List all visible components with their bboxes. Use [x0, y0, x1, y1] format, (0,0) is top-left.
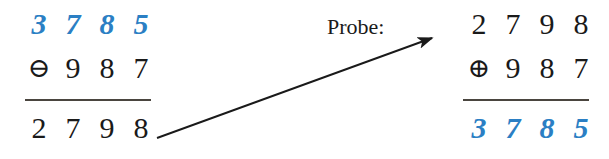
digit-cell: 7	[124, 53, 158, 83]
digit-cell: 7	[496, 113, 530, 143]
addition-addend-row: ⊕ 9 8 7	[440, 48, 608, 88]
digit-cell: 7	[564, 53, 598, 83]
probe-arithmetic-figure: 3 7 8 5 ⊖ 9 8 7 2 7 9 8 Probe:	[0, 0, 609, 159]
digit-cell: 5	[564, 113, 598, 143]
circled-plus-icon: ⊕	[462, 55, 496, 82]
addition-rule	[463, 99, 589, 101]
probe-label: Probe:	[327, 14, 384, 40]
addition-result-row: 3 7 8 5	[440, 108, 608, 148]
digit-cell: 7	[496, 9, 530, 39]
digit-cell: 8	[124, 113, 158, 143]
digit-cell: 8	[530, 53, 564, 83]
digit-cell: 9	[90, 113, 124, 143]
digit-cell: 3	[22, 9, 56, 39]
subtraction-minuend-row: 3 7 8 5	[0, 4, 168, 44]
subtraction-subtrahend-row: ⊖ 9 8 7	[0, 48, 168, 88]
digit-cell: 9	[56, 53, 90, 83]
digit-cell: 3	[462, 113, 496, 143]
digit-cell: 9	[496, 53, 530, 83]
digit-cell: 9	[530, 9, 564, 39]
digit-cell: 7	[56, 9, 90, 39]
digit-cell: 8	[564, 9, 598, 39]
digit-cell: 5	[124, 9, 158, 39]
digit-cell: 2	[462, 9, 496, 39]
digit-cell: 7	[56, 113, 90, 143]
circled-minus-icon: ⊖	[22, 55, 56, 82]
subtraction-result-row: 2 7 9 8	[0, 108, 168, 148]
digit-cell: 2	[22, 113, 56, 143]
digit-cell: 8	[530, 113, 564, 143]
addition-augend-row: 2 7 9 8	[440, 4, 608, 44]
digit-cell: 8	[90, 9, 124, 39]
subtraction-rule	[25, 99, 151, 101]
digit-cell: 8	[90, 53, 124, 83]
